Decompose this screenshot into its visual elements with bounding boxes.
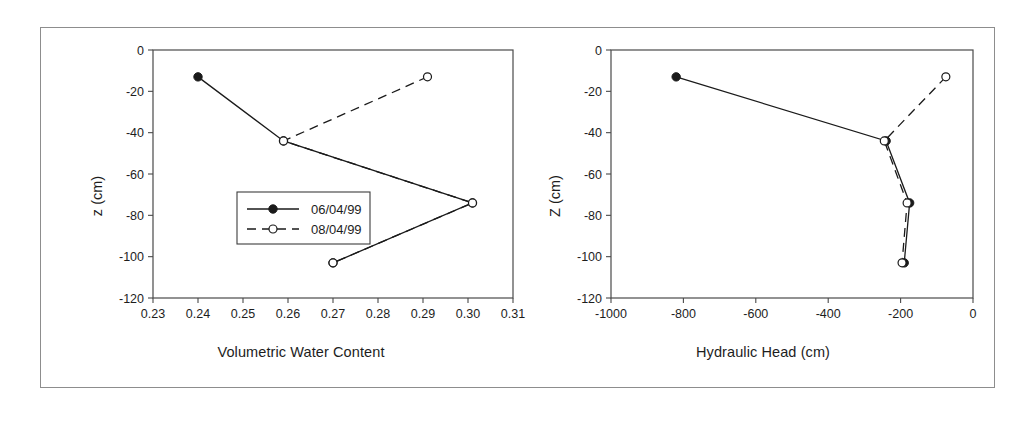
data-point-06-04-99 bbox=[672, 73, 680, 81]
x-tick-label: 0.25 bbox=[231, 307, 255, 321]
y-tick-label: -40 bbox=[584, 126, 602, 140]
x-tick-label: 0.26 bbox=[276, 307, 300, 321]
x-tick-label: 0.24 bbox=[186, 307, 210, 321]
data-point-08-04-99 bbox=[280, 137, 288, 145]
x-tick-label: -200 bbox=[888, 307, 913, 321]
x-tick-label: 0.28 bbox=[366, 307, 390, 321]
data-point-08-04-99 bbox=[942, 73, 950, 81]
y-tick-label: -60 bbox=[584, 168, 602, 182]
legend-marker-swatch bbox=[269, 205, 277, 213]
x-tick-label: 0.29 bbox=[411, 307, 435, 321]
data-point-08-04-99 bbox=[329, 259, 337, 267]
y-tick-label: -20 bbox=[584, 85, 602, 99]
data-point-06-04-99 bbox=[194, 73, 202, 81]
x-axis-title-hydraulic-head: Hydraulic Head (cm) bbox=[573, 344, 953, 360]
x-tick-label: 0.31 bbox=[501, 307, 525, 321]
x-tick-label: 0.30 bbox=[456, 307, 480, 321]
data-point-08-04-99 bbox=[424, 73, 432, 81]
data-point-08-04-99 bbox=[469, 199, 477, 207]
series-line-06-04-99 bbox=[676, 77, 909, 263]
y-tick-label: -120 bbox=[119, 292, 144, 306]
y-tick-label: -120 bbox=[577, 292, 602, 306]
figure-outer-frame: 0-20-40-60-80-100-1200.230.240.250.260.2… bbox=[40, 27, 995, 388]
legend-label: 08/04/99 bbox=[311, 222, 362, 237]
y-tick-label: -100 bbox=[119, 250, 144, 264]
panel-hydraulic-head: 0-20-40-60-80-100-120-1000-800-600-400-2… bbox=[533, 28, 988, 389]
y-tick-label: -80 bbox=[126, 209, 144, 223]
plot-area-hydraulic-head: 0-20-40-60-80-100-120-1000-800-600-400-2… bbox=[533, 28, 988, 344]
plot-frame-hydraulic-head bbox=[611, 50, 973, 298]
x-tick-label: 0 bbox=[970, 307, 977, 321]
y-axis-title-volumetric-water-content: z (cm) bbox=[89, 156, 105, 236]
y-axis-title-hydraulic-head: Z (cm) bbox=[547, 156, 563, 236]
y-tick-label: -40 bbox=[126, 126, 144, 140]
data-point-08-04-99 bbox=[880, 137, 888, 145]
y-tick-label: -80 bbox=[584, 209, 602, 223]
y-tick-label: -100 bbox=[577, 250, 602, 264]
x-tick-label: -600 bbox=[743, 307, 768, 321]
x-tick-label: -400 bbox=[816, 307, 841, 321]
y-tick-label: -60 bbox=[126, 168, 144, 182]
figure-root: 0-20-40-60-80-100-1200.230.240.250.260.2… bbox=[0, 0, 1036, 428]
legend-marker-swatch bbox=[269, 225, 277, 233]
panel-volumetric-water-content: 0-20-40-60-80-100-1200.230.240.250.260.2… bbox=[61, 28, 531, 389]
plot-area-volumetric-water-content: 0-20-40-60-80-100-1200.230.240.250.260.2… bbox=[61, 28, 531, 344]
series-line-08-04-99 bbox=[884, 77, 946, 263]
y-tick-label: -20 bbox=[126, 85, 144, 99]
y-tick-label: 0 bbox=[137, 44, 144, 58]
x-axis-title-volumetric-water-content: Volumetric Water Content bbox=[111, 344, 491, 360]
x-tick-label: 0.27 bbox=[321, 307, 345, 321]
x-tick-label: 0.23 bbox=[141, 307, 165, 321]
x-tick-label: -800 bbox=[671, 307, 696, 321]
data-point-08-04-99 bbox=[903, 199, 911, 207]
y-tick-label: 0 bbox=[595, 44, 602, 58]
x-tick-label: -1000 bbox=[595, 307, 627, 321]
data-point-08-04-99 bbox=[898, 259, 906, 267]
legend-label: 06/04/99 bbox=[311, 202, 362, 217]
